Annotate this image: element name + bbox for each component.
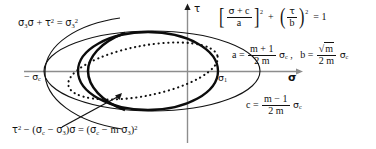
center-offset-definition: c = m − 12 m σc: [246, 94, 302, 117]
parabolic-envelope-equation: σ3σ + τ2 = σ32: [18, 18, 78, 29]
semi-axis-definitions: a = m + 12 m σc , b = √m2 m σc: [232, 44, 348, 67]
tau-axis: [184, 4, 190, 144]
modified-envelope-equation: τ2 − (σc − σ3)σ = (σc − m σ3)2: [12, 125, 137, 136]
sigma-axis: [24, 68, 303, 74]
ellipse-standard-form: [σ + ca]2 + (τb)2 = 1: [218, 6, 326, 29]
sigma-axis-label: σ: [288, 72, 296, 84]
tau-axis-label: τ: [194, 3, 200, 14]
left-arc-curve: [45, 18, 122, 129]
neg-sigma-c-label: − σc: [24, 72, 41, 83]
sigma-1-label: σ1: [218, 73, 227, 84]
